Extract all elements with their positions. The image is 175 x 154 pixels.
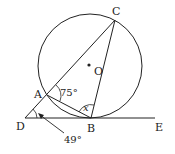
label-c: C	[112, 5, 120, 18]
label-d: D	[16, 120, 25, 133]
angle-label-x: x	[83, 102, 89, 113]
angle-arc-d	[33, 109, 37, 118]
angle-label-49: 49°	[64, 134, 82, 145]
angle-label-75: 75°	[60, 87, 78, 98]
center-point-o	[87, 63, 90, 66]
label-e: E	[155, 121, 163, 134]
label-b: B	[87, 122, 95, 135]
label-a: A	[33, 88, 43, 101]
label-o: O	[94, 65, 103, 78]
geometry-diagram: C O A D B E 75° x 49°	[0, 0, 175, 154]
